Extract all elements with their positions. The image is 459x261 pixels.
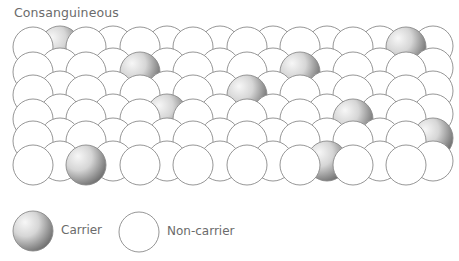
legend-non-carrier-label: Non-carrier <box>167 224 235 238</box>
legend-carrier-label: Carrier <box>61 223 102 237</box>
individuals-layer <box>13 26 453 185</box>
non-carrier-individual <box>13 145 53 185</box>
non-carrier-individual <box>173 145 213 185</box>
non-carrier-individual <box>280 145 320 185</box>
non-carrier-individual <box>120 145 160 185</box>
non-carrier-individual <box>386 145 426 185</box>
legend-non-carrier-icon <box>119 212 159 252</box>
population-grid <box>0 0 459 261</box>
non-carrier-individual <box>227 145 267 185</box>
legend-carrier-icon <box>13 211 53 251</box>
carrier-individual <box>66 145 106 185</box>
non-carrier-individual <box>333 145 373 185</box>
